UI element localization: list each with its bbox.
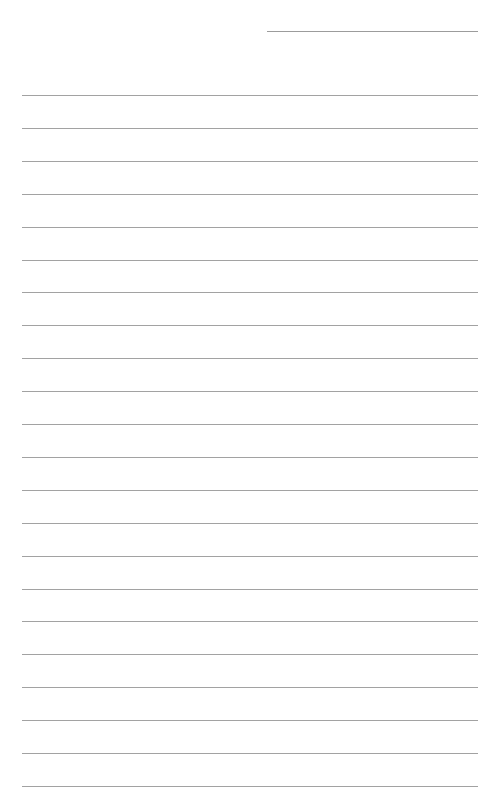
ruled-line (22, 687, 478, 688)
ruled-line (22, 589, 478, 590)
ruled-line (22, 260, 478, 261)
ruled-line (22, 753, 478, 754)
ruled-lines-area (22, 0, 478, 795)
ruled-line (22, 391, 478, 392)
ruled-line (22, 358, 478, 359)
ruled-line (22, 95, 478, 96)
ruled-line (22, 457, 478, 458)
ruled-line (22, 720, 478, 721)
ruled-line (22, 161, 478, 162)
ruled-line (22, 227, 478, 228)
ruled-line (22, 621, 478, 622)
ruled-line (22, 292, 478, 293)
ruled-line (22, 654, 478, 655)
ruled-line (22, 325, 478, 326)
ruled-line (22, 128, 478, 129)
ruled-line (22, 490, 478, 491)
ruled-line (22, 194, 478, 195)
ruled-line (22, 556, 478, 557)
ruled-line (22, 786, 478, 787)
ruled-line (22, 523, 478, 524)
ruled-line (22, 424, 478, 425)
lined-page (0, 0, 496, 795)
